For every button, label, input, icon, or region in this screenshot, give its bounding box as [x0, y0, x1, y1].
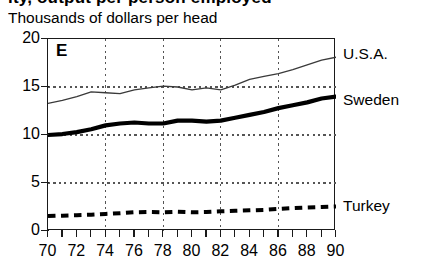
y-tick-label-0: 0	[0, 222, 40, 238]
vertical-gridlines	[106, 39, 279, 231]
chart-figure: ity, output per person employed Thousand…	[0, 0, 432, 268]
plot-svg	[48, 39, 336, 231]
x-tick-label-72: 72	[63, 243, 89, 259]
series-label-sweden: Sweden	[343, 92, 399, 108]
chart-subtitle: Thousands of dollars per head	[8, 9, 217, 27]
x-tick-label-86: 86	[265, 243, 291, 259]
series-label-usa: U.S.A.	[343, 46, 388, 62]
y-tick-label-20: 20	[0, 30, 40, 46]
chart-title-cropped: ity, output per person employed	[0, 0, 432, 9]
panel-letter: E	[56, 42, 67, 60]
y-tick-label-5: 5	[0, 174, 40, 190]
x-tick-label-88: 88	[294, 243, 320, 259]
series-label-turkey: Turkey	[343, 198, 390, 214]
x-tick-label-90: 90	[323, 243, 349, 259]
series-line-sweden	[48, 97, 336, 135]
y-tick-label-15: 15	[0, 78, 40, 94]
x-tick-label-80: 80	[179, 243, 205, 259]
x-tick-label-74: 74	[92, 243, 118, 259]
series-line-usa	[48, 57, 336, 103]
x-tick-label-82: 82	[207, 243, 233, 259]
x-tick-label-76: 76	[121, 243, 147, 259]
y-axis-ticks	[41, 38, 49, 231]
chart-title-text: ity, output per person employed	[8, 0, 272, 8]
horizontal-gridlines	[48, 87, 336, 183]
y-tick-label-10: 10	[0, 126, 40, 142]
plot-area	[47, 38, 335, 230]
x-tick-label-70: 70	[35, 243, 61, 259]
x-tick-label-84: 84	[236, 243, 262, 259]
x-axis-ticks	[47, 230, 336, 239]
x-tick-label-78: 78	[150, 243, 176, 259]
series-line-turkey	[48, 207, 336, 217]
